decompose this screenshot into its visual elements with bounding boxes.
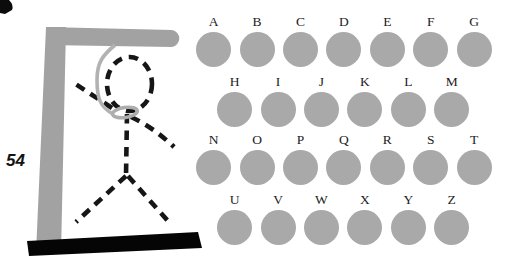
letter-label-g: G (469, 12, 479, 32)
hangman-game-screen: 54 A B C D E F G (0, 0, 518, 270)
letter-circle-m[interactable] (434, 92, 469, 127)
letter-button-u[interactable]: U (213, 190, 256, 245)
letter-label-p: P (297, 130, 305, 150)
letter-button-w[interactable]: W (300, 190, 343, 245)
letter-circle-a[interactable] (196, 32, 231, 67)
letter-circle-r[interactable] (370, 150, 405, 185)
wrong-guess-counter: 54 (6, 151, 25, 170)
figure-body (126, 114, 127, 176)
corner-artifact (0, 0, 13, 14)
letter-button-t[interactable]: T (452, 130, 495, 185)
letter-circle-u[interactable] (217, 210, 252, 245)
letter-row-3: N O P Q R S T (192, 130, 496, 185)
letter-circle-x[interactable] (347, 210, 382, 245)
letter-button-f[interactable]: F (409, 12, 452, 67)
letter-button-z[interactable]: Z (430, 190, 473, 245)
letter-button-m[interactable]: M (430, 72, 473, 127)
letter-button-r[interactable]: R (366, 130, 409, 185)
letter-button-q[interactable]: Q (322, 130, 365, 185)
letter-row-4: U V W X Y Z (213, 190, 473, 245)
letter-label-q: Q (339, 130, 349, 150)
letter-label-o: O (252, 130, 262, 150)
letter-row-1: A B C D E F G (192, 12, 496, 67)
letter-label-n: N (209, 130, 219, 150)
stick-figure (74, 57, 174, 222)
letter-label-s: S (427, 130, 435, 150)
letter-button-e[interactable]: E (366, 12, 409, 67)
letter-label-c: C (296, 12, 305, 32)
letter-button-i[interactable]: I (256, 72, 299, 127)
letter-circle-b[interactable] (240, 32, 275, 67)
letter-label-h: H (230, 72, 240, 92)
figure-right-arm (131, 117, 174, 147)
letter-button-c[interactable]: C (279, 12, 322, 67)
letter-circle-w[interactable] (304, 210, 339, 245)
letter-label-w: W (315, 190, 328, 210)
letter-label-a: A (209, 12, 219, 32)
letter-label-d: D (339, 12, 349, 32)
letter-button-l[interactable]: L (387, 72, 430, 127)
figure-right-leg (128, 176, 168, 221)
gallows-post (36, 27, 66, 253)
letter-button-s[interactable]: S (409, 130, 452, 185)
letter-circle-s[interactable] (413, 150, 448, 185)
letter-circle-g[interactable] (457, 32, 492, 67)
letter-button-x[interactable]: X (343, 190, 386, 245)
letter-label-f: F (427, 12, 435, 32)
letter-button-a[interactable]: A (192, 12, 235, 67)
letter-button-g[interactable]: G (452, 12, 495, 67)
letter-button-k[interactable]: K (343, 72, 386, 127)
letter-circle-t[interactable] (457, 150, 492, 185)
letter-button-y[interactable]: Y (387, 190, 430, 245)
letter-circle-h[interactable] (217, 92, 252, 127)
letter-circle-d[interactable] (326, 32, 361, 67)
letter-circle-z[interactable] (434, 210, 469, 245)
letter-button-b[interactable]: B (235, 12, 278, 67)
letter-circle-l[interactable] (391, 92, 426, 127)
hangman-gallows-illustration: 54 (0, 0, 210, 270)
letter-circle-y[interactable] (391, 210, 426, 245)
letter-circle-p[interactable] (283, 150, 318, 185)
letter-button-n[interactable]: N (192, 130, 235, 185)
letter-label-y: Y (403, 190, 413, 210)
letter-circle-q[interactable] (326, 150, 361, 185)
letter-button-p[interactable]: P (279, 130, 322, 185)
letter-label-r: R (383, 130, 392, 150)
letter-label-z: Z (448, 190, 456, 210)
letter-label-j: J (319, 72, 324, 92)
letter-label-x: X (360, 190, 370, 210)
letter-circle-i[interactable] (261, 92, 296, 127)
letter-circle-f[interactable] (413, 32, 448, 67)
letter-label-t: T (470, 130, 478, 150)
letter-circle-k[interactable] (347, 92, 382, 127)
letter-circle-e[interactable] (370, 32, 405, 67)
letter-label-m: M (446, 72, 458, 92)
letter-button-h[interactable]: H (213, 72, 256, 127)
letter-label-v: V (273, 190, 283, 210)
letter-circle-o[interactable] (240, 150, 275, 185)
letter-label-u: U (230, 190, 240, 210)
letter-circle-v[interactable] (261, 210, 296, 245)
letter-label-k: K (360, 72, 370, 92)
letter-button-d[interactable]: D (322, 12, 365, 67)
letter-circle-j[interactable] (304, 92, 339, 127)
letter-label-e: E (383, 12, 391, 32)
letter-label-l: L (404, 72, 412, 92)
letter-circle-c[interactable] (283, 32, 318, 67)
figure-left-leg (76, 176, 126, 222)
letter-button-o[interactable]: O (235, 130, 278, 185)
figure-head (107, 57, 152, 111)
letter-row-2: H I J K L M (213, 72, 473, 127)
letter-label-i: I (276, 72, 281, 92)
letter-circle-n[interactable] (196, 150, 231, 185)
gallows-beam (46, 27, 179, 47)
letter-button-v[interactable]: V (256, 190, 299, 245)
letter-button-j[interactable]: J (300, 72, 343, 127)
letter-label-b: B (253, 12, 262, 32)
